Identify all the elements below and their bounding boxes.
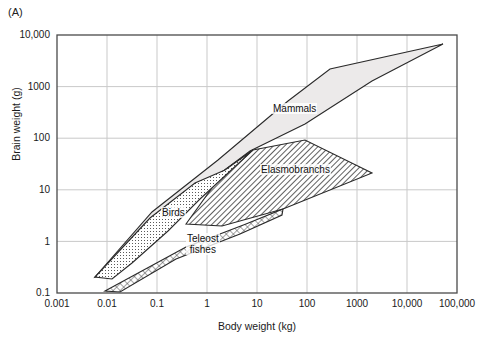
region-label-elasmobranchs: Elasmobranchs	[260, 164, 331, 175]
region-label-birds: Birds	[161, 207, 186, 218]
figure-container: Brain weight (g) 10,000 1000 100 10 1 0.…	[0, 0, 481, 343]
region-label-mammals: Mammals	[272, 103, 317, 114]
teleost-label-line1: Teleost	[187, 233, 219, 244]
plot-svg	[0, 0, 481, 343]
teleost-label-line2: fishes	[190, 244, 216, 255]
region-label-teleost-fishes: Teleost fishes	[186, 233, 220, 255]
